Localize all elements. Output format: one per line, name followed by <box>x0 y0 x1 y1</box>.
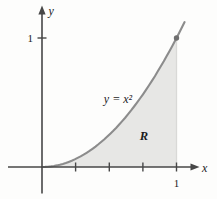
y-axis-label: y <box>48 4 55 18</box>
x-tick-label-1: 1 <box>174 177 180 189</box>
plot-svg: y x 1 1 y = x² R <box>0 0 217 199</box>
figure-container: y x 1 1 y = x² R <box>0 0 217 199</box>
x-axis-label: x <box>201 161 208 175</box>
y-tick-label-1: 1 <box>28 32 34 44</box>
curve-equation-label: y = x² <box>103 92 133 106</box>
point-1-1-marker <box>174 35 179 40</box>
region-label: R <box>139 129 148 143</box>
